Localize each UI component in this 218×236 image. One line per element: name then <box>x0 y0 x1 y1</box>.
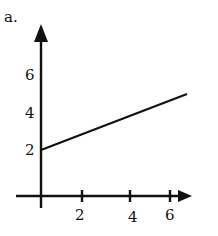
x-tick-label-4: 4 <box>128 210 138 225</box>
y-tick-label-6: 6 <box>25 68 35 83</box>
y-tick-label-4: 4 <box>25 106 35 121</box>
data-line <box>41 94 187 150</box>
x-tick-label-6: 6 <box>165 208 175 223</box>
x-axis-arrow <box>178 190 192 202</box>
y-tick-label-2: 2 <box>25 143 35 158</box>
y-axis-arrow <box>34 24 48 42</box>
x-tick-label-2: 2 <box>75 208 85 223</box>
